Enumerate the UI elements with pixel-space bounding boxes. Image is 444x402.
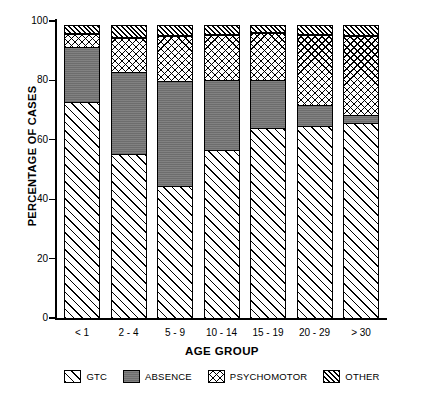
legend-item-other: OTHER <box>323 370 379 383</box>
stacked-bar-chart: PERCENTAGE OF CASES 100806040200 < 12 - … <box>0 0 444 402</box>
y-tick-label: 60 <box>16 135 48 145</box>
bar-group <box>157 21 193 318</box>
bar-segment-psychomotor <box>343 36 379 116</box>
y-tick-mark <box>49 20 56 21</box>
bar-segment-psychomotor <box>64 34 100 49</box>
legend-label: GTC <box>86 371 107 382</box>
bar-segment-other <box>157 25 193 37</box>
legend-swatch-gtc-icon <box>64 370 81 383</box>
legend-item-psychomotor: PSYCHOMOTOR <box>208 370 308 383</box>
bar-segment-psychomotor <box>297 35 333 106</box>
legend-label: ABSENCE <box>145 371 192 382</box>
bar-segment-gtc <box>157 186 193 320</box>
y-tick-label: 100 <box>16 16 48 26</box>
y-tick-label: 40 <box>16 194 48 204</box>
bar-segment-other <box>297 25 333 35</box>
bar-group <box>343 21 379 318</box>
bar-segment-psychomotor <box>111 38 147 74</box>
legend-label: OTHER <box>345 371 379 382</box>
bar-segment-other <box>343 25 379 37</box>
bar-segment-absence <box>157 81 193 186</box>
legend-swatch-absence-icon <box>123 370 140 383</box>
bar-segment-gtc <box>64 102 100 319</box>
y-axis-title: PERCENTAGE OF CASES <box>26 36 38 276</box>
x-tick-label: > 30 <box>333 327 389 338</box>
y-tick-label: 20 <box>16 254 48 264</box>
bar-segment-other <box>204 25 240 35</box>
y-tick-mark <box>49 139 56 140</box>
bar-segment-absence <box>111 72 147 155</box>
y-tick-mark <box>49 80 56 81</box>
plot-area <box>56 21 386 318</box>
bar-segment-gtc <box>250 128 286 320</box>
legend-item-gtc: GTC <box>64 370 107 383</box>
bar-segment-psychomotor <box>204 35 240 81</box>
bar-segment-absence <box>250 80 286 129</box>
bar-segment-absence <box>297 105 333 127</box>
chart-legend: GTCABSENCEPSYCHOMOTOROTHER <box>0 370 444 383</box>
bar-group <box>250 21 286 318</box>
y-tick-mark <box>49 199 56 200</box>
legend-label: PSYCHOMOTOR <box>230 371 308 382</box>
bar-segment-gtc <box>297 126 333 319</box>
bar-segment-other <box>64 25 100 34</box>
bar-group <box>64 21 100 318</box>
y-tick-mark <box>49 258 56 259</box>
bar-segment-other <box>250 25 286 34</box>
bar-group <box>111 21 147 318</box>
bar-segment-absence <box>204 80 240 151</box>
legend-swatch-psychomotor-icon <box>208 370 225 383</box>
bar-segment-gtc <box>204 150 240 319</box>
bar-segment-gtc <box>111 154 147 319</box>
bar-segment-psychomotor <box>157 36 193 82</box>
legend-swatch-other-icon <box>323 370 340 383</box>
bar-segment-other <box>111 25 147 38</box>
y-tick-mark <box>49 317 56 318</box>
y-tick-label: 80 <box>16 75 48 85</box>
x-axis-title: AGE GROUP <box>0 345 444 357</box>
y-tick-label: 0 <box>16 313 48 323</box>
bar-segment-absence <box>64 47 100 103</box>
bar-segment-psychomotor <box>250 33 286 81</box>
bar-group <box>204 21 240 318</box>
bar-group <box>297 21 333 318</box>
legend-item-absence: ABSENCE <box>123 370 192 383</box>
bar-segment-gtc <box>343 123 379 319</box>
